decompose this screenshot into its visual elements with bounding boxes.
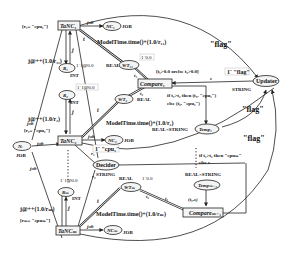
marking-wt1: 1`0.0 xyxy=(141,55,152,60)
guard-tanc2: [r₂= "cpu₂"] xyxy=(24,128,50,133)
transition-decider-label: Decider xyxy=(96,162,116,168)
colorset-realxstring-1: REAL×STRING xyxy=(152,127,188,132)
inscription-t2-top: t₂ xyxy=(140,91,143,96)
inscription-r1: r₁ xyxy=(91,151,95,156)
place-wt2-label: WT₂ xyxy=(118,97,128,102)
inscription-job-n3: job xyxy=(29,166,37,171)
place-temp1-label: Temp₁ xyxy=(199,127,212,132)
transition-comparem1-label: Compareₘ₋₁ xyxy=(189,210,221,216)
inscription-s: s xyxy=(209,76,212,81)
place-wt1-label: WT₁₁ xyxy=(122,63,133,68)
transition-updater-label: Updater xyxy=(256,78,278,84)
inscription-flag-1: "flag" xyxy=(210,40,232,49)
colorset-job-n: JOB xyxy=(16,153,26,158)
inscription-else-cpu: else (t₂, "cpu₂") xyxy=(167,101,200,106)
colorset-int-m: INT xyxy=(72,196,82,201)
place-wtm-label: WTₘ xyxy=(124,185,136,190)
inscription-t1-bottom: t₁ xyxy=(165,196,168,201)
marking-rm: 1`1@0.0 xyxy=(60,178,78,183)
transition-compare1-label: Compare₁ xyxy=(140,81,165,87)
colorset-realxstring-m: REAL×STRING xyxy=(185,172,221,177)
marking-wtm: 1`0.0 xyxy=(142,176,153,181)
colorset-job-1: JOB xyxy=(122,24,132,29)
marking-decider: 1` "cpu₁" xyxy=(95,146,119,152)
inscription-flag-2: "flag" xyxy=(242,105,264,114)
place-n-label: Nᵢ xyxy=(17,144,23,149)
place-r1-label: R₁ xyxy=(63,66,68,71)
inscription-if-cpu: if t₁>t₂ then (t₁, "cpu₁") xyxy=(167,93,217,98)
place-r2-label: R₂ xyxy=(63,93,68,98)
inscription-t-1: t xyxy=(83,36,85,42)
marking-r1: 1`1@0.0 xyxy=(76,63,94,68)
arc-updater-compare1 xyxy=(172,81,254,83)
inscription-t-2: t xyxy=(97,107,99,113)
place-nc1-label: NC₁ xyxy=(105,24,115,29)
colorset-int-1: INT xyxy=(70,73,80,78)
inscription-else-s: else s xyxy=(199,160,210,165)
inscription-r2: r₂ xyxy=(92,174,96,179)
transition-tancm-label: TaNCₘ xyxy=(58,228,77,234)
inscription-j-2: j xyxy=(71,109,74,115)
marking-r2: 1`1@0.0 xyxy=(77,85,95,90)
place-tempm1-label: Tempₘ₋₁ xyxy=(198,183,217,188)
inscription-t-m: t xyxy=(97,198,99,204)
inscription-j-m: j xyxy=(67,205,70,211)
colorset-real-2: REAL xyxy=(137,97,152,102)
colorset-real-1: REAL xyxy=(106,63,121,68)
inscription-job-n1: job xyxy=(26,121,34,126)
colorset-string-decider: STRING xyxy=(96,172,115,177)
colorset-string-updater: STRING xyxy=(232,87,251,92)
inscription-flag-3: "flag" xyxy=(243,134,265,143)
arc-decider-compare xyxy=(118,163,245,165)
transition-tanc2-label: TaNC₂ xyxy=(60,138,77,144)
inscription-j-1: j xyxy=(71,47,74,53)
colorset-job-m: JOB xyxy=(123,230,133,235)
marking-updater: 1` "flag" xyxy=(227,69,250,75)
transition-tanc1-label: TaNC₁ xyxy=(60,23,77,29)
inscription-j-rm: j@++(1.0/rₘ) xyxy=(19,206,55,213)
guard-compare1: [t₁>0.0 orelse t₂>0.0] xyxy=(156,69,199,74)
colorset-real-m: REAL xyxy=(119,176,134,181)
petri-net-diagram: TaNC₁ NC₁ JOB WT₁₁ REAL 1`0.0 R₁ INT 1`1… xyxy=(0,0,288,257)
inscription-job-n2: job xyxy=(36,141,44,146)
inscription-job-2: job xyxy=(87,134,95,139)
place-nc2-label: NC₂ xyxy=(107,138,117,143)
place-rm-label: Rₘ xyxy=(62,190,69,195)
place-ncm-label: NCₘ xyxy=(106,228,118,233)
inscription-t1-top: t₁ xyxy=(134,73,137,78)
inscription-modelm: ModelTime.time()+(1.0/rₘ) xyxy=(96,211,166,218)
guard-tancm: [rₘ= "cpuₘ"] xyxy=(20,218,51,223)
inscription-job-1: job xyxy=(86,20,94,25)
inscription-j-r1: j@++(1.0/r₁₁) xyxy=(27,58,62,65)
arc-tanc1-n xyxy=(32,30,62,140)
arc-comparem1-updater xyxy=(222,163,246,213)
arc-n-tancm xyxy=(32,152,62,238)
inscription-model1: ModelTime.time()+(1.0/r₁₁) xyxy=(97,39,166,46)
guard-tanc1: [r₁= "cpu₁"] xyxy=(22,24,48,29)
inscription-tuple: (t₁,s) xyxy=(188,197,198,202)
inscription-model2: ModelTime.time()+(1.0/r₂) xyxy=(106,120,173,127)
inscription-job-m: job xyxy=(86,224,94,229)
colorset-int-2: INT xyxy=(70,100,80,105)
inscription-t2-bottom: t₂ xyxy=(146,194,149,199)
colorset-job-2: JOB xyxy=(124,138,134,143)
inscription-if-cpum: if t₁>t₂ then "cpuₘ" xyxy=(199,153,242,158)
